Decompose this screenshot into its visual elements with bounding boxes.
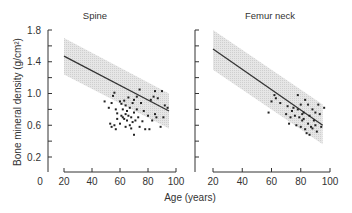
data-point — [127, 115, 129, 117]
data-point — [297, 108, 299, 110]
data-point — [153, 96, 155, 98]
data-point — [132, 121, 134, 123]
data-point — [323, 107, 325, 109]
data-point — [120, 103, 122, 105]
data-point — [294, 115, 296, 117]
data-point — [147, 115, 149, 117]
data-point — [311, 108, 313, 110]
data-point — [132, 102, 134, 104]
x-tick-label: 40 — [86, 176, 98, 187]
data-point — [161, 90, 163, 92]
bone-density-figure: 0.20.61.01.41.820406080100Spine204060801… — [0, 0, 352, 213]
data-point — [126, 119, 128, 121]
femur-neck-chart: 20406080100Femur neck — [195, 10, 339, 187]
data-point — [319, 113, 321, 115]
data-point — [154, 113, 156, 115]
data-point — [154, 90, 156, 92]
x-tick-label: 20 — [207, 176, 219, 187]
data-point — [303, 118, 305, 120]
data-point — [317, 104, 319, 106]
data-point — [104, 100, 106, 102]
data-point — [292, 107, 294, 109]
data-point — [316, 131, 318, 133]
data-point — [115, 128, 117, 130]
y-tick-label: 0.2 — [27, 152, 41, 163]
data-point — [116, 118, 118, 120]
data-point — [112, 95, 114, 97]
x-tick-label: 60 — [266, 176, 278, 187]
y-origin-label: 0 — [37, 176, 43, 187]
data-point — [300, 126, 302, 128]
data-point — [307, 123, 309, 125]
data-point — [309, 115, 311, 117]
data-point — [115, 108, 117, 110]
data-point — [320, 126, 322, 128]
data-point — [164, 104, 166, 106]
y-tick-label: 1.8 — [27, 25, 41, 36]
data-point — [129, 107, 131, 109]
data-point — [162, 116, 164, 118]
data-point — [144, 128, 146, 130]
data-point — [130, 116, 132, 118]
x-tick-label: 100 — [322, 176, 339, 187]
data-point — [116, 112, 118, 114]
data-point — [150, 99, 152, 101]
data-point — [279, 102, 281, 104]
data-point — [139, 126, 141, 128]
data-point — [129, 124, 131, 126]
data-point — [108, 107, 110, 109]
data-point — [125, 104, 127, 106]
data-point — [273, 94, 275, 96]
regression-line — [64, 56, 169, 111]
data-point — [311, 127, 313, 129]
regression-line — [213, 49, 323, 125]
data-point — [113, 92, 115, 94]
chart-title: Spine — [83, 10, 107, 21]
data-point — [139, 89, 141, 91]
x-tick-label: 80 — [142, 176, 154, 187]
data-point — [268, 112, 270, 114]
data-point — [313, 119, 315, 121]
y-tick-label: 1.0 — [27, 88, 41, 99]
data-point — [298, 116, 300, 118]
data-point — [127, 96, 129, 98]
data-point — [123, 100, 125, 102]
data-point — [140, 102, 142, 104]
data-point — [133, 112, 135, 114]
data-point — [290, 116, 292, 118]
x-tick-label: 40 — [237, 176, 249, 187]
data-point — [157, 97, 159, 99]
data-point — [303, 112, 305, 114]
data-point — [134, 119, 136, 121]
data-point — [295, 124, 297, 126]
data-point — [126, 110, 128, 112]
data-point — [297, 94, 299, 96]
data-point — [122, 108, 124, 110]
data-point — [136, 108, 138, 110]
data-point — [304, 99, 306, 101]
y-axis-label: Bone mineral density (g/cm²) — [12, 38, 23, 166]
data-point — [125, 113, 127, 115]
data-point — [314, 112, 316, 114]
data-point — [137, 116, 139, 118]
data-point — [300, 104, 302, 106]
data-point — [167, 107, 169, 109]
data-point — [136, 96, 138, 98]
data-point — [314, 124, 316, 126]
data-point — [148, 128, 150, 130]
data-point — [125, 126, 127, 128]
data-point — [143, 110, 145, 112]
data-point — [113, 124, 115, 126]
data-point — [160, 126, 162, 128]
data-point — [141, 120, 143, 122]
data-point — [307, 104, 309, 106]
data-point — [133, 134, 135, 136]
data-point — [155, 116, 157, 118]
data-point — [287, 105, 289, 107]
data-point — [304, 128, 306, 130]
x-axis-label: Age (years) — [164, 192, 216, 203]
data-point — [119, 123, 121, 125]
data-point — [130, 127, 132, 129]
y-tick-label: 1.4 — [27, 56, 41, 67]
x-tick-label: 60 — [114, 176, 126, 187]
